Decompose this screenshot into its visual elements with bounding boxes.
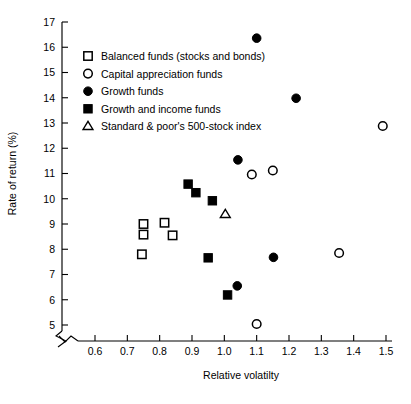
series-group: [233, 34, 300, 290]
legend-item-label: Standard & poor's 500-stock index: [101, 120, 262, 132]
data-point-marker[interactable]: [223, 291, 231, 299]
data-point-marker[interactable]: [248, 170, 257, 179]
data-point-marker[interactable]: [208, 197, 216, 205]
x-tick-label: 1.3: [314, 345, 329, 357]
data-point-marker[interactable]: [233, 282, 242, 291]
legend-marker-icon: [84, 105, 92, 113]
x-tick-label: 1.0: [217, 345, 232, 357]
data-point-marker[interactable]: [234, 156, 243, 165]
x-tick-label: 1.5: [379, 345, 394, 357]
series-group: [248, 122, 388, 329]
x-axis-break-icon: [59, 336, 78, 342]
y-tick-label: 15: [43, 66, 55, 78]
series-group: [184, 180, 232, 299]
legend-item-label: Capital appreciation funds: [101, 68, 222, 80]
x-tick-label: 0.6: [88, 345, 103, 357]
legend-item-label: Growth funds: [101, 85, 163, 97]
scatter-chart: 5678910111213141516170.60.70.80.91.01.11…: [0, 0, 411, 404]
legend-item[interactable]: Standard & poor's 500-stock index: [83, 120, 262, 132]
legend: Balanced funds (stocks and bonds)Capital…: [83, 50, 265, 132]
y-tick-label: 9: [49, 218, 55, 230]
x-tick-label: 0.9: [185, 345, 200, 357]
y-tick-label: 12: [43, 142, 55, 154]
y-axis-break-icon: [56, 331, 66, 347]
y-tick-label: 14: [43, 92, 55, 104]
data-point-marker[interactable]: [168, 231, 176, 239]
plot-area: 5678910111213141516170.60.70.80.91.01.11…: [0, 0, 411, 404]
y-tick-label: 13: [43, 117, 55, 129]
y-tick-label: 17: [43, 16, 55, 28]
legend-item[interactable]: Balanced funds (stocks and bonds): [84, 50, 265, 62]
data-point-marker[interactable]: [139, 230, 147, 238]
legend-item[interactable]: Capital appreciation funds: [84, 68, 223, 80]
legend-marker-icon: [84, 69, 93, 78]
x-tick-label: 1.2: [282, 345, 297, 357]
legend-item-label: Balanced funds (stocks and bonds): [101, 50, 265, 62]
data-point-marker[interactable]: [378, 122, 387, 131]
data-point-marker[interactable]: [160, 219, 168, 227]
x-tick-label: 0.8: [152, 345, 167, 357]
legend-item[interactable]: Growth funds: [84, 85, 164, 97]
data-point-marker[interactable]: [335, 249, 344, 258]
y-tick-label: 10: [43, 193, 55, 205]
data-point-marker[interactable]: [252, 320, 261, 329]
series-group: [138, 219, 177, 259]
data-point-marker[interactable]: [292, 94, 301, 103]
data-point-marker[interactable]: [192, 188, 200, 196]
series-group: [220, 209, 230, 217]
x-tick-label: 1.1: [249, 345, 264, 357]
y-tick-label: 7: [49, 268, 55, 280]
legend-marker-icon: [84, 87, 93, 96]
y-tick-label: 16: [43, 41, 55, 53]
legend-marker-icon: [83, 121, 93, 129]
y-tick-label: 5: [49, 319, 55, 331]
data-point-marker[interactable]: [139, 220, 147, 228]
legend-item-label: Growth and income funds: [101, 103, 221, 115]
x-tick-label: 0.7: [120, 345, 135, 357]
y-axis-title: Rate of return (%): [6, 132, 18, 215]
y-tick-label: 6: [49, 294, 55, 306]
data-point-marker[interactable]: [269, 253, 278, 262]
data-point-marker[interactable]: [269, 166, 278, 175]
data-point-marker[interactable]: [204, 254, 212, 262]
legend-marker-icon: [84, 52, 92, 60]
data-point-marker[interactable]: [252, 34, 261, 43]
x-axis-title: Relative volatilty: [203, 369, 280, 381]
data-point-marker[interactable]: [138, 250, 146, 258]
legend-item[interactable]: Growth and income funds: [84, 103, 221, 115]
data-point-marker[interactable]: [184, 180, 192, 188]
y-tick-label: 11: [44, 167, 55, 179]
y-tick-label: 8: [49, 243, 55, 255]
data-point-marker[interactable]: [220, 209, 230, 217]
x-tick-label: 1.4: [346, 345, 361, 357]
